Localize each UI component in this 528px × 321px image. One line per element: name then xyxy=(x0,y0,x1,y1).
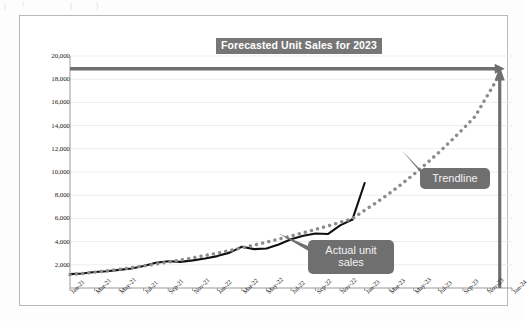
trendline-callout: Trendline xyxy=(420,168,490,189)
y-axis-tick-label: 2,000 xyxy=(55,261,70,269)
scan-artifact-mark: | xyxy=(4,2,6,9)
vertical-forecast-arrow xyxy=(495,66,505,288)
y-axis-tick-label: 18,000 xyxy=(51,75,70,83)
y-axis-tick-label: 14,000 xyxy=(51,122,70,130)
scan-artifact-mark: / xyxy=(22,1,24,8)
actual-unit-sales-callout: Actual unit sales xyxy=(308,240,394,274)
callout-line-1: Trendline xyxy=(427,172,483,184)
y-axis-tick-label: 8,000 xyxy=(55,191,70,199)
y-axis-tick-label: 16,000 xyxy=(51,98,70,106)
scan-artifact-mark: ) xyxy=(96,2,98,9)
x-axis: Jan-21Mar-21May-21Jul-21Sep-21Nov-21Jan-… xyxy=(70,290,512,321)
y-axis-tick-label: 12,000 xyxy=(51,145,70,153)
y-axis-tick-label: 10,000 xyxy=(51,168,70,176)
y-axis-tick-label: 20,000 xyxy=(51,52,70,60)
chart-title: Forecasted Unit Sales for 2023 xyxy=(216,38,382,54)
y-axis-tick-label: 4,000 xyxy=(55,238,70,246)
y-axis-tick-label: 6,000 xyxy=(55,214,70,222)
horizontal-forecast-arrow xyxy=(70,64,505,74)
chart-frame: Forecasted Unit Sales for 2023 2,0004,00… xyxy=(19,15,508,306)
x-axis-tick-label: Jan-24 xyxy=(511,278,528,295)
y-axis: 2,0004,0006,0008,00010,00012,00014,00016… xyxy=(39,56,70,288)
gridlines xyxy=(70,56,512,265)
callout-line-1: Actual unit xyxy=(315,244,387,256)
scan-artifact-mark: ( xyxy=(70,2,72,9)
callout-line-2: sales xyxy=(315,256,387,268)
